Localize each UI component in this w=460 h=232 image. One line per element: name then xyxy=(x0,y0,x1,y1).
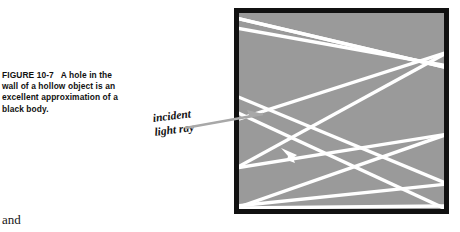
hollow-cavity-box xyxy=(234,8,449,214)
caption-line-1: A hole in the xyxy=(61,70,112,80)
figure-number: FIGURE 10-7 xyxy=(2,70,54,80)
caption-line-2: wall of a hollow object is an xyxy=(2,81,115,91)
incident-light-ray-label: incident light ray xyxy=(152,107,195,139)
figure-caption: FIGURE 10-7A hole in the wall of a hollo… xyxy=(2,70,152,115)
cavity-diagram-svg xyxy=(234,8,449,214)
trailing-body-text: and xyxy=(2,212,21,228)
caption-line-4: black body. xyxy=(2,104,49,114)
figure-number-line: FIGURE 10-7A hole in the xyxy=(2,70,112,80)
caption-line-3: excellent approximation of a xyxy=(2,92,118,102)
ray-segment-8 xyxy=(236,206,448,208)
figure-10-7: FIGURE 10-7A hole in the wall of a hollo… xyxy=(0,0,460,232)
